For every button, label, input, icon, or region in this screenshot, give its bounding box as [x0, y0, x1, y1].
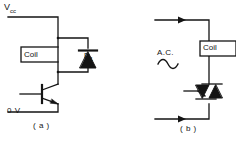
sine-wave-icon — [158, 60, 178, 69]
diode-top-branch-wire — [58, 38, 88, 48]
diode-label-d1: D1 — [84, 52, 93, 62]
top-supply-wire — [155, 20, 209, 41]
triac-symbol — [196, 84, 222, 99]
ac-source-label: A.C. — [157, 49, 174, 57]
circuit-a-wires — [8, 17, 88, 112]
coil-label-b: Coil — [203, 44, 217, 52]
current-arrow-heads — [178, 17, 186, 123]
diode-bottom-branch-wire — [58, 68, 88, 72]
junction-dot-top-a — [57, 37, 60, 40]
circuit-b-wires — [155, 20, 209, 119]
figure-canvas: Vcc Coil D1 0 V ( a ) A.C. Coil ( b ) — [0, 0, 236, 143]
coil-label-a: Coil — [24, 51, 38, 59]
ground-label: 0 V — [7, 107, 21, 115]
vcc-label: Vcc — [4, 3, 16, 14]
caption-b: ( b ) — [180, 125, 197, 133]
npn-transistor-symbol — [42, 84, 58, 104]
bottom-current-arrow-icon — [178, 116, 186, 123]
top-current-arrow-icon — [178, 17, 186, 24]
caption-a: ( a ) — [33, 122, 50, 130]
junction-dot-bottom-a — [57, 71, 60, 74]
vcc-rail-wire — [8, 17, 58, 47]
bottom-return-wire — [155, 104, 209, 119]
